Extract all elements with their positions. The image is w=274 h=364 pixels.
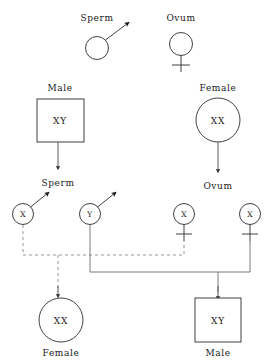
gamete-sperm-x-tail-icon xyxy=(31,193,49,207)
gamete-ovum-x1-allele: X xyxy=(181,210,187,219)
legend-ovum-label: Ovum xyxy=(166,13,195,23)
solid-connector-line xyxy=(90,225,250,272)
sperm-tail-arrow-icon xyxy=(106,23,129,40)
ovum-icon xyxy=(170,33,193,56)
legend-ovum-group xyxy=(170,33,193,73)
parent-female-group xyxy=(196,98,240,171)
gamete-sperm-x-allele: X xyxy=(20,210,26,219)
gamete-ovum-x2-allele: X xyxy=(247,210,253,219)
offspring-female-label: Female xyxy=(43,348,80,358)
offspring-male-label: Male xyxy=(205,348,230,358)
sex-determination-diagram: Sperm Ovum Male XY Female XX Sperm Ovum … xyxy=(0,0,274,364)
sperm-row-label: Sperm xyxy=(41,178,74,188)
diagram-canvas: Sperm Ovum Male XY Female XX Sperm Ovum … xyxy=(0,0,274,364)
solid-fertilisation-path xyxy=(90,225,250,298)
offspring-female-genotype: XX xyxy=(54,316,68,326)
parent-male-label: Male xyxy=(47,83,72,93)
ovum-row-label: Ovum xyxy=(203,181,232,191)
sperm-icon xyxy=(86,37,109,60)
gamete-sperm-y-tail-icon xyxy=(98,193,116,207)
gamete-sperm-y-allele: Y xyxy=(86,210,93,219)
parent-female-label: Female xyxy=(200,83,237,93)
parent-male-group xyxy=(37,99,84,168)
dashed-fertilisation-path xyxy=(23,225,184,296)
legend-sperm-label: Sperm xyxy=(80,13,113,23)
parent-female-genotype: XX xyxy=(211,116,225,126)
dashed-connector-line xyxy=(23,225,184,255)
parent-male-genotype: XY xyxy=(53,116,67,126)
offspring-male-genotype: XY xyxy=(211,316,225,326)
gamete-sperm-x-group xyxy=(13,193,49,225)
legend-sperm-group xyxy=(86,23,129,60)
gamete-sperm-y-group xyxy=(80,193,116,225)
